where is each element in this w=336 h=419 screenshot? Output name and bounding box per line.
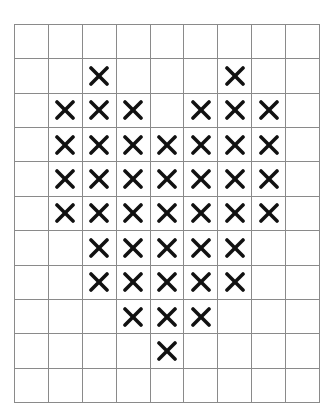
grid-cell: [218, 266, 252, 300]
x-icon: [157, 169, 177, 189]
grid-cell: [83, 266, 117, 300]
x-icon: [89, 66, 109, 86]
grid-cell: [117, 162, 151, 196]
grid-cell: [151, 369, 185, 403]
grid-cell: [252, 59, 286, 93]
grid-cell: [286, 266, 320, 300]
grid-cell: [83, 59, 117, 93]
grid-cell: [286, 59, 320, 93]
x-icon: [89, 238, 109, 258]
grid-cell: [49, 94, 83, 128]
cross-stitch-grid: [14, 24, 320, 403]
x-icon: [157, 135, 177, 155]
x-icon: [123, 238, 143, 258]
x-icon: [123, 169, 143, 189]
grid-cell: [286, 128, 320, 162]
grid-cell: [218, 59, 252, 93]
grid-cell: [184, 300, 218, 334]
grid-cell: [218, 128, 252, 162]
grid-cell: [286, 369, 320, 403]
grid-cell: [252, 300, 286, 334]
grid-cell: [184, 25, 218, 59]
grid-cell: [184, 197, 218, 231]
x-icon: [89, 135, 109, 155]
grid-cell: [15, 197, 49, 231]
x-icon: [123, 307, 143, 327]
grid-cell: [117, 25, 151, 59]
x-icon: [191, 307, 211, 327]
grid-cell: [252, 25, 286, 59]
x-icon: [225, 238, 245, 258]
grid-cell: [49, 162, 83, 196]
grid-cell: [218, 162, 252, 196]
grid-cell: [83, 25, 117, 59]
x-icon: [191, 169, 211, 189]
grid-cell: [49, 59, 83, 93]
grid-cell: [83, 231, 117, 265]
x-icon: [55, 100, 75, 120]
grid-cell: [286, 300, 320, 334]
x-icon: [191, 135, 211, 155]
grid-cell: [117, 266, 151, 300]
x-icon: [157, 307, 177, 327]
grid-cell: [218, 231, 252, 265]
grid-cell: [252, 334, 286, 368]
x-icon: [191, 238, 211, 258]
grid-cell: [252, 266, 286, 300]
grid-cell: [15, 162, 49, 196]
grid-cell: [252, 94, 286, 128]
grid-cell: [49, 334, 83, 368]
grid-cell: [184, 162, 218, 196]
grid-cell: [49, 25, 83, 59]
grid-cell: [184, 369, 218, 403]
x-icon: [123, 135, 143, 155]
grid-cell: [117, 334, 151, 368]
grid-cell: [286, 162, 320, 196]
grid-cell: [83, 197, 117, 231]
x-icon: [89, 100, 109, 120]
grid-cell: [184, 266, 218, 300]
grid-cell: [117, 369, 151, 403]
grid-cell: [151, 59, 185, 93]
grid-cell: [83, 162, 117, 196]
grid-cell: [252, 231, 286, 265]
grid-cell: [252, 369, 286, 403]
grid-cell: [49, 266, 83, 300]
grid-cell: [218, 334, 252, 368]
grid-cell: [117, 197, 151, 231]
x-icon: [55, 135, 75, 155]
x-icon: [89, 169, 109, 189]
grid-cell: [117, 231, 151, 265]
x-icon: [55, 169, 75, 189]
grid-cell: [15, 59, 49, 93]
grid-cell: [218, 25, 252, 59]
grid-cell: [15, 231, 49, 265]
grid-cell: [83, 300, 117, 334]
x-icon: [123, 272, 143, 292]
grid-cell: [151, 300, 185, 334]
grid-cell: [218, 369, 252, 403]
grid-cell: [286, 94, 320, 128]
grid-cell: [15, 300, 49, 334]
grid-cell: [218, 94, 252, 128]
grid-cell: [49, 300, 83, 334]
x-icon: [123, 203, 143, 223]
x-icon: [89, 272, 109, 292]
grid-cell: [151, 197, 185, 231]
grid-cell: [15, 369, 49, 403]
x-icon: [157, 238, 177, 258]
x-icon: [225, 135, 245, 155]
grid-cell: [184, 128, 218, 162]
grid-cell: [252, 128, 286, 162]
grid-cell: [49, 231, 83, 265]
grid-cell: [151, 128, 185, 162]
x-icon: [55, 203, 75, 223]
grid-cell: [49, 128, 83, 162]
grid-cell: [151, 162, 185, 196]
grid-cell: [184, 59, 218, 93]
x-icon: [123, 100, 143, 120]
x-icon: [259, 169, 279, 189]
grid-cell: [83, 369, 117, 403]
grid-cell: [15, 266, 49, 300]
x-icon: [157, 203, 177, 223]
